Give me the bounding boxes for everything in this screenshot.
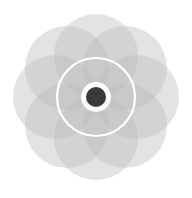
mandala-figure: Eight overlapping translucent gray circl… [0, 0, 192, 198]
mandala-canvas: Eight overlapping translucent gray circl… [0, 0, 192, 198]
center-dot [86, 87, 106, 107]
